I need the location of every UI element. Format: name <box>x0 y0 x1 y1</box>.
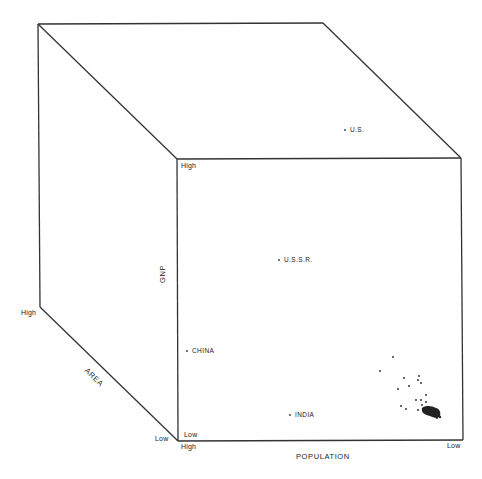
point-china <box>186 350 188 352</box>
dense-cluster-blob <box>422 406 441 418</box>
label-us: U.S. <box>350 126 364 133</box>
label-china: CHINA <box>192 347 214 354</box>
area-high-label: High <box>21 309 36 316</box>
point-india <box>289 414 291 416</box>
gnp-axis-title: GNP <box>158 265 167 283</box>
cube-chart <box>0 0 482 479</box>
population-high-label: High <box>181 443 196 450</box>
population-low-label: Low <box>447 442 460 449</box>
gnp-low-label: Low <box>184 431 197 438</box>
point-ussr <box>278 259 280 261</box>
point-us <box>344 129 346 131</box>
cluster-points <box>379 356 441 419</box>
label-ussr: U.S.S.R. <box>284 256 312 263</box>
label-india: INDIA <box>295 411 314 418</box>
gnp-high-label: High <box>181 162 196 169</box>
area-low-label: Low <box>155 435 168 442</box>
labeled-points <box>186 129 346 416</box>
population-axis-title: POPULATION <box>296 452 350 461</box>
